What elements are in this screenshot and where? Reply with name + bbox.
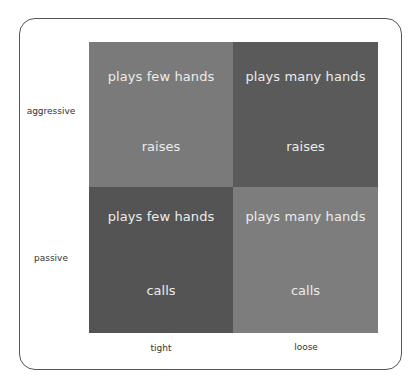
row-label-passive: passive [16,253,86,263]
quadrant-grid: plays few hands raises plays many hands … [89,42,378,333]
cell-action: calls [233,283,378,298]
cell-aggressive-tight: plays few hands raises [89,42,233,187]
cell-aggressive-loose: plays many hands raises [233,42,378,187]
cell-hand-range: plays few hands [89,69,233,84]
cell-hand-range: plays few hands [89,209,233,224]
cell-action: raises [89,139,233,154]
cell-action: calls [89,283,233,298]
cell-hand-range: plays many hands [233,209,378,224]
cell-passive-loose: plays many hands calls [233,187,378,333]
cell-action: raises [233,139,378,154]
cell-hand-range: plays many hands [233,69,378,84]
cell-passive-tight: plays few hands calls [89,187,233,333]
row-label-aggressive: aggressive [16,106,86,116]
column-label-loose: loose [234,342,378,352]
column-label-tight: tight [89,343,233,353]
